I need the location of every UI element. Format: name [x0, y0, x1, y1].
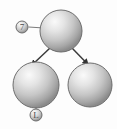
parent-sphere — [40, 10, 82, 52]
callout-label-l: L — [33, 110, 39, 120]
edge-root-to-child-right — [72, 48, 88, 65]
diagram-svg: 7 L — [0, 0, 117, 129]
child-sphere-left — [13, 62, 59, 108]
diagram-canvas: 7 L — [0, 0, 117, 129]
child-sphere-right — [68, 63, 112, 107]
callout-label-7: 7 — [20, 22, 25, 32]
